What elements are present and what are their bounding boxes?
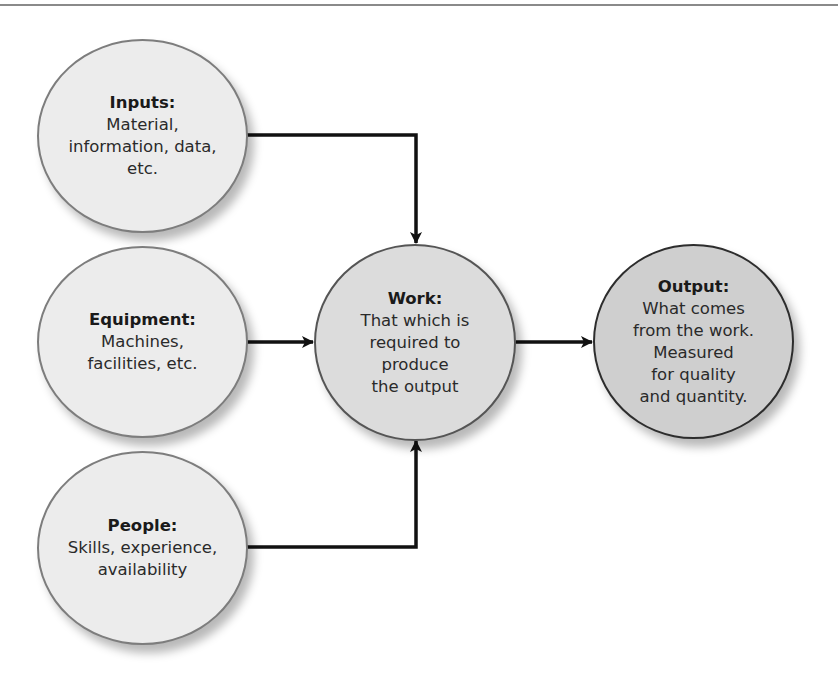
node-inputs: Inputs: Material, information, data, etc… (37, 39, 248, 233)
node-equipment: Equipment: Machines, facilities, etc. (37, 246, 248, 438)
node-work-body: That which is required to produce the ou… (361, 310, 470, 398)
node-work: Work: That which is required to produce … (314, 244, 516, 441)
node-people-body: Skills, experience, availability (68, 537, 218, 581)
node-people-title: People: (108, 515, 178, 537)
edge-inputs-to-work (240, 135, 416, 243)
node-equipment-body: Machines, facilities, etc. (88, 331, 198, 375)
node-inputs-title: Inputs: (110, 92, 176, 114)
edge-people-to-work (240, 441, 416, 547)
node-inputs-body: Material, information, data, etc. (68, 114, 216, 180)
node-output: Output: What comes from the work. Measur… (593, 244, 794, 439)
node-output-title: Output: (658, 276, 730, 298)
node-people: People: Skills, experience, availability (37, 451, 248, 645)
node-equipment-title: Equipment: (89, 309, 196, 331)
node-output-body: What comes from the work. Measured for q… (633, 298, 754, 408)
node-work-title: Work: (388, 288, 443, 310)
